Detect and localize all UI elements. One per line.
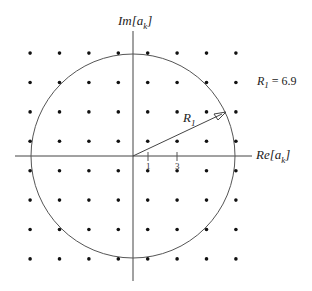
constellation-point: [87, 257, 91, 261]
constellation-point: [58, 228, 62, 232]
tick-label-1: 1: [146, 162, 151, 171]
constellation-point: [117, 81, 121, 85]
constellation-point: [146, 257, 150, 261]
constellation-point: [234, 81, 238, 85]
constellation-point: [234, 228, 238, 232]
constellation-point: [175, 257, 179, 261]
constellation-point: [28, 81, 32, 85]
constellation-point: [28, 51, 32, 55]
constellation-point: [205, 81, 209, 85]
constellation-point: [117, 110, 121, 114]
constellation-point: [87, 228, 91, 232]
constellation-point: [205, 51, 209, 55]
constellation-point: [28, 198, 32, 202]
constellation-point: [234, 169, 238, 173]
constellation-point: [87, 110, 91, 114]
imag-axis-label: Im[ak]: [118, 14, 152, 31]
constellation-diagram: [0, 0, 312, 291]
constellation-point: [146, 140, 150, 144]
constellation-point: [117, 257, 121, 261]
constellation-point: [28, 257, 32, 261]
constellation-point: [117, 169, 121, 173]
constellation-point: [175, 51, 179, 55]
constellation-point: [146, 81, 150, 85]
constellation-point: [205, 198, 209, 202]
constellation-point: [58, 81, 62, 85]
constellation-point: [87, 140, 91, 144]
constellation-point: [146, 51, 150, 55]
constellation-point: [205, 140, 209, 144]
constellation-point: [58, 257, 62, 261]
constellation-point: [58, 51, 62, 55]
constellation-point: [205, 257, 209, 261]
constellation-point: [87, 81, 91, 85]
constellation-point: [234, 110, 238, 114]
radius-label: R1: [183, 111, 195, 128]
constellation-point: [28, 228, 32, 232]
constellation-point: [175, 198, 179, 202]
constellation-point: [58, 110, 62, 114]
tick-label-3: 3: [175, 162, 180, 171]
constellation-point: [234, 198, 238, 202]
constellation-point: [58, 140, 62, 144]
constellation-point: [28, 140, 32, 144]
constellation-point: [234, 51, 238, 55]
constellation-point: [175, 140, 179, 144]
constellation-point: [234, 257, 238, 261]
constellation-point: [117, 51, 121, 55]
constellation-point: [146, 110, 150, 114]
radius-arrow: [133, 112, 226, 156]
real-axis-label: Re[ak]: [256, 148, 290, 165]
constellation-point: [28, 110, 32, 114]
constellation-point: [28, 169, 32, 173]
constellation-point: [87, 51, 91, 55]
constellation-point: [175, 228, 179, 232]
radius-value-label: R1 = 6.9: [257, 75, 297, 90]
constellation-point: [234, 140, 238, 144]
constellation-point: [205, 110, 209, 114]
constellation-point: [175, 81, 179, 85]
constellation-point: [87, 169, 91, 173]
constellation-point: [117, 228, 121, 232]
constellation-point: [175, 110, 179, 114]
constellation-point: [117, 140, 121, 144]
constellation-point: [205, 169, 209, 173]
constellation-point: [58, 198, 62, 202]
constellation-point: [146, 228, 150, 232]
constellation-point: [87, 198, 91, 202]
constellation-point: [205, 228, 209, 232]
constellation-point: [58, 169, 62, 173]
constellation-point: [146, 198, 150, 202]
constellation-point: [117, 198, 121, 202]
